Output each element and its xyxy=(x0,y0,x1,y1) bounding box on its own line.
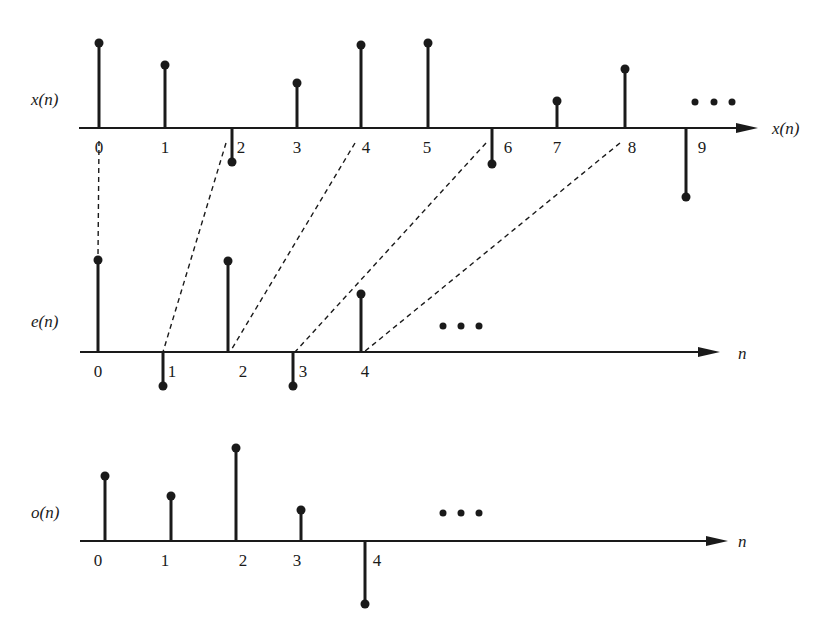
o-signal-label: o(n) xyxy=(31,503,60,522)
e-tick-label: 3 xyxy=(299,362,308,381)
e-sample-dot-0 xyxy=(94,256,103,265)
x-tick-label: 6 xyxy=(504,138,513,157)
e-tick-label: 2 xyxy=(239,362,248,381)
x-tick-label: 3 xyxy=(293,138,302,157)
x-sample-dot-4 xyxy=(357,41,366,50)
connector-dashed-line xyxy=(295,143,486,352)
x-sample-dot-3 xyxy=(293,79,302,88)
e-tick-label: 0 xyxy=(94,362,103,381)
x-sample-dot-7 xyxy=(553,97,562,106)
even-sample-connectors xyxy=(98,141,620,352)
o-sample-dot-0 xyxy=(101,472,110,481)
x-sample-dot-2 xyxy=(228,158,237,167)
ellipsis-dot-icon xyxy=(458,510,465,517)
connector-dashed-line xyxy=(163,143,226,352)
arrow-head-icon xyxy=(698,347,720,357)
ellipsis-dot-icon xyxy=(692,99,699,106)
o-sample-dot-2 xyxy=(232,444,241,453)
x-sample-dot-8 xyxy=(621,65,630,74)
decimation-diagram: 0123456789 01234 01234 x(n) e(n) o(n) x(… xyxy=(0,0,837,632)
x-tick-label: 8 xyxy=(628,138,637,157)
e-tick-label: 4 xyxy=(361,362,370,381)
e-axis-end-label: n xyxy=(738,344,747,363)
e-sample-dot-2 xyxy=(224,257,233,266)
ellipsis-dot-icon xyxy=(476,323,483,330)
ellipsis-dot-icon xyxy=(440,323,447,330)
o-axis-end-label: n xyxy=(738,532,747,551)
x-signal-label: x(n) xyxy=(30,90,59,109)
x-axis-end-label: x(n) xyxy=(771,119,800,138)
x-tick-label: 7 xyxy=(553,138,562,157)
panel-e-signal: 01234 xyxy=(80,256,720,391)
x-sample-dot-6 xyxy=(488,160,497,169)
x-sample-dot-9 xyxy=(682,193,691,202)
x-tick-label: 2 xyxy=(237,138,246,157)
e-sample-dot-3 xyxy=(289,382,298,391)
o-tick-label: 0 xyxy=(94,551,103,570)
x-tick-label: 4 xyxy=(362,138,371,157)
arrow-head-icon xyxy=(706,536,728,546)
x-tick-label: 1 xyxy=(161,138,170,157)
x-tick-label: 5 xyxy=(423,138,432,157)
ellipsis-dot-icon xyxy=(458,323,465,330)
arrow-head-icon xyxy=(736,123,758,133)
ellipsis-dot-icon xyxy=(440,510,447,517)
e-tick-label: 1 xyxy=(168,362,177,381)
x-sample-dot-1 xyxy=(161,61,170,70)
o-tick-label: 1 xyxy=(161,551,170,570)
o-tick-label: 2 xyxy=(239,551,248,570)
ellipsis-dot-icon xyxy=(729,99,736,106)
x-sample-dot-5 xyxy=(424,39,433,48)
panel-o-signal: 01234 xyxy=(80,444,728,609)
x-tick-label: 0 xyxy=(95,138,104,157)
x-sample-dot-0 xyxy=(95,39,104,48)
e-sample-dot-4 xyxy=(357,290,366,299)
x-tick-label: 9 xyxy=(698,138,707,157)
o-tick-label: 4 xyxy=(373,551,382,570)
connector-dashed-line xyxy=(230,143,355,352)
o-sample-dot-3 xyxy=(297,506,306,515)
o-tick-label: 3 xyxy=(293,551,302,570)
o-sample-dot-4 xyxy=(361,600,370,609)
o-sample-dot-1 xyxy=(167,492,176,501)
ellipsis-dot-icon xyxy=(711,99,718,106)
connector-dashed-line xyxy=(364,143,620,352)
panel-x-signal: 0123456789 xyxy=(79,39,758,202)
connector-dashed-line xyxy=(98,141,99,256)
ellipsis-dot-icon xyxy=(476,510,483,517)
e-signal-label: e(n) xyxy=(31,312,59,331)
e-sample-dot-1 xyxy=(159,382,168,391)
